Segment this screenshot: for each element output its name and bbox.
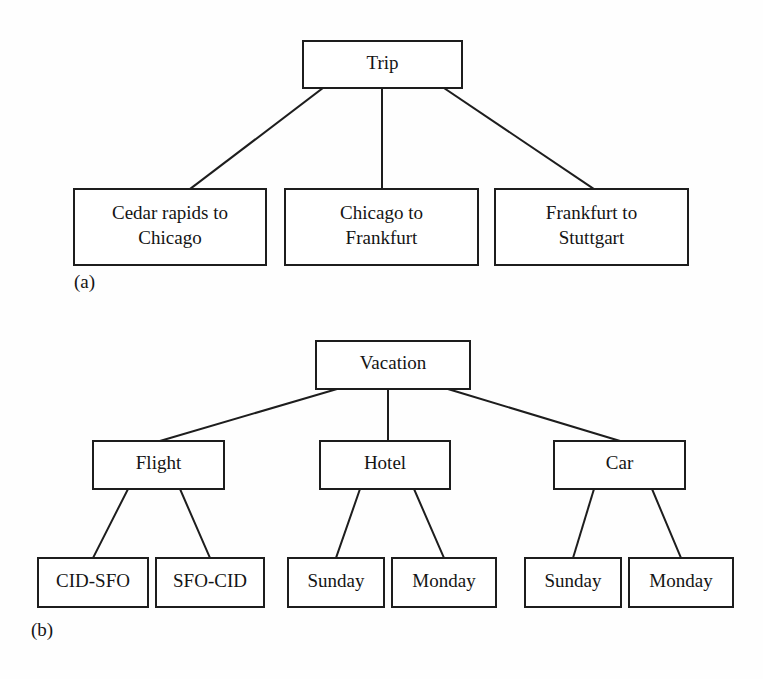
node-trip: Trip (303, 41, 462, 88)
node-chicago-to-frankfurt: Chicago toFrankfurt (285, 189, 478, 265)
node-label-hotel-monday: Monday (412, 570, 476, 591)
node-label-line: Stuttgart (559, 227, 625, 248)
edge-flight-to-cid-sfo (93, 489, 128, 558)
node-label-cid-sfo: CID-SFO (56, 570, 130, 591)
edge-car-to-car-monday (652, 489, 681, 558)
node-label-line: Vacation (360, 352, 427, 373)
edge-hotel-to-hotel-monday (414, 489, 444, 558)
panel-b: VacationFlightHotelCarCID-SFOSFO-CIDSund… (31, 341, 733, 641)
node-cedar-rapids-to-chicago: Cedar rapids toChicago (74, 189, 266, 265)
node-car-monday: Monday (629, 558, 733, 607)
node-label-line: Hotel (364, 452, 406, 473)
panel-a: TripCedar rapids toChicagoChicago toFran… (74, 41, 688, 293)
node-label-line: Sunday (545, 570, 603, 591)
node-car: Car (554, 441, 685, 489)
hierarchy-diagram-canvas: TripCedar rapids toChicagoChicago toFran… (0, 0, 763, 679)
node-car-sunday: Sunday (525, 558, 621, 607)
node-label-flight: Flight (136, 452, 182, 473)
node-label-sfo-cid: SFO-CID (173, 570, 247, 591)
node-vacation: Vacation (316, 341, 470, 389)
node-label-line: Frankfurt to (546, 202, 637, 223)
edge-trip-to-cedar-rapids-to-chicago (190, 88, 323, 189)
edge-vacation-to-car (448, 389, 620, 441)
node-frankfurt-to-stuttgart: Frankfurt toStuttgart (495, 189, 688, 265)
edge-hotel-to-hotel-sunday (336, 489, 360, 558)
node-label-trip: Trip (366, 52, 398, 73)
node-hotel-sunday: Sunday (288, 558, 384, 607)
edge-flight-to-sfo-cid (180, 489, 210, 558)
panel-caption-panel-b: (b) (31, 619, 53, 641)
node-label-vacation: Vacation (360, 352, 427, 373)
node-label-line: Monday (412, 570, 476, 591)
edge-car-to-car-sunday (573, 489, 594, 558)
node-label-line: CID-SFO (56, 570, 130, 591)
panel-caption-panel-a: (a) (74, 271, 95, 293)
edge-trip-to-frankfurt-to-stuttgart (444, 88, 594, 189)
node-hotel: Hotel (320, 441, 450, 489)
node-label-hotel-sunday: Sunday (308, 570, 366, 591)
node-label-line: Flight (136, 452, 182, 473)
node-label-car-monday: Monday (649, 570, 713, 591)
node-label-car-sunday: Sunday (545, 570, 603, 591)
node-label-line: Chicago to (340, 202, 423, 223)
node-label-line: Chicago (138, 227, 201, 248)
figure-container: TripCedar rapids toChicagoChicago toFran… (0, 0, 763, 679)
node-label-car: Car (606, 452, 634, 473)
node-label-line: Cedar rapids to (112, 202, 228, 223)
node-label-line: Car (606, 452, 634, 473)
node-label-hotel: Hotel (364, 452, 406, 473)
node-label-line: SFO-CID (173, 570, 247, 591)
edge-vacation-to-flight (160, 389, 337, 441)
node-sfo-cid: SFO-CID (156, 558, 264, 607)
node-label-line: Monday (649, 570, 713, 591)
node-cid-sfo: CID-SFO (38, 558, 148, 607)
node-label-line: Sunday (308, 570, 366, 591)
node-label-line: Trip (366, 52, 398, 73)
node-flight: Flight (93, 441, 224, 489)
node-label-line: Frankfurt (346, 227, 418, 248)
node-hotel-monday: Monday (392, 558, 496, 607)
